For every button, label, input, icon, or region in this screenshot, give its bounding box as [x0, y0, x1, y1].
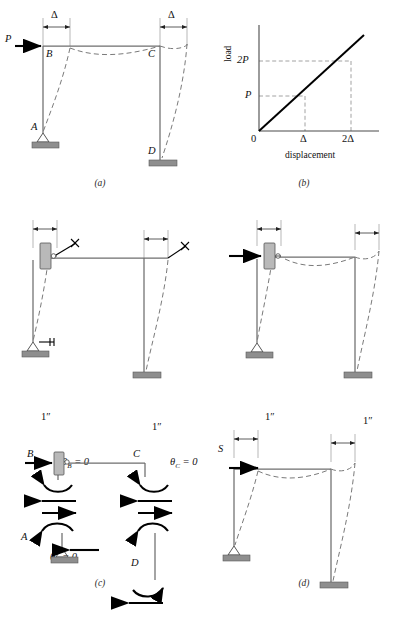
panel-a-support-d-label: D [148, 145, 156, 156]
clamp-b-d [264, 243, 281, 269]
panel-f: S 1″ 1″ × P S (f) [201, 400, 403, 619]
panel-a-support-a-label: A [31, 121, 37, 132]
dimension-1in-right [144, 230, 168, 258]
chart-xtick-delta: Δ [300, 133, 307, 144]
dimension-delta-left [43, 18, 70, 46]
panel-f-drawing [201, 400, 403, 619]
panel-a-joint-c: C [148, 48, 155, 59]
girder-free-body [58, 463, 145, 480]
panel-c-drawing [0, 200, 201, 400]
support-d-d [344, 372, 372, 378]
chart-ytick-p: P [245, 89, 251, 100]
panel-e: V1 + V2 = S V1 V1 V2 V2 MBA MCD MDC (e) [0, 400, 201, 619]
panel-a-drawing [0, 0, 201, 200]
deflected-shape [43, 44, 187, 158]
chart-ytick-2p: 2P [237, 54, 249, 65]
support-d-c [133, 372, 161, 378]
dimension-1in-right-f [331, 434, 355, 462]
panel-a-load-label: P [5, 33, 11, 44]
panel-d-drawing [201, 200, 403, 400]
right-column-free-body [129, 485, 172, 603]
panel-a-dim-right-label: Δ [168, 9, 175, 20]
dimension-1in-right-d [355, 224, 379, 250]
chart-series-line [259, 35, 364, 131]
deflected-shape-f [235, 463, 355, 581]
panel-a-caption: (a) [80, 178, 120, 188]
chart-xlabel: displacement [285, 150, 335, 160]
rotation-restraint-b-icon [56, 239, 79, 255]
support-a [32, 133, 59, 148]
panel-a: P B C A D Δ Δ (a) [0, 0, 201, 200]
panel-c: B C A D 1″ 1″ θB = 0 θC = 0 θA = 0 (c) [0, 200, 201, 400]
left-column-free-body [42, 485, 99, 563]
frame-original [43, 46, 160, 160]
chart-ylabel: load [223, 46, 233, 62]
panel-e-drawing [0, 400, 201, 619]
dimension-1in-left-d [257, 220, 281, 246]
support-a-c [22, 338, 54, 357]
chart-guides [259, 61, 351, 131]
deflected-shape-d [257, 251, 379, 371]
dimension-delta-right [160, 18, 187, 46]
chart-xtick-2delta: 2Δ [342, 133, 354, 144]
clamp-b [40, 243, 57, 269]
chart-origin-label: 0 [251, 133, 256, 144]
panel-b: load displacement 0 P 2P Δ 2Δ (b) [201, 0, 403, 200]
figure-root: { "figure": { "title": "Portal frame sid… [0, 0, 403, 619]
dimension-1in-left-f [234, 430, 258, 458]
support-a-f [223, 546, 250, 561]
rotation-restraint-c-icon [168, 242, 189, 258]
support-d [149, 160, 177, 166]
panel-b-caption: (b) [284, 178, 324, 188]
frame-f [234, 469, 331, 582]
panel-d: S 1″ 1″ (d) [201, 200, 403, 400]
panel-a-dim-left-label: Δ [51, 9, 58, 20]
panel-a-joint-b: B [46, 48, 52, 59]
support-a-d [246, 343, 273, 358]
support-d-f [320, 582, 348, 588]
frame-displaced [33, 258, 168, 372]
deflected-shape-c [33, 260, 168, 371]
force-arrow-sum-v [25, 452, 69, 475]
panel-b-chart [201, 0, 403, 200]
